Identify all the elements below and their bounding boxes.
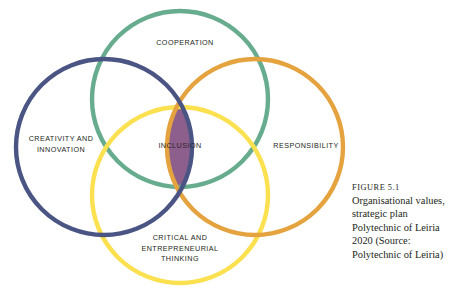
figure-caption: FIGURE 5.1 Organisational values, strate… bbox=[352, 181, 452, 261]
venn-diagram: COOPERATION CREATIVITY AND INNOVATION RE… bbox=[0, 0, 350, 296]
figure-caption-text: Organisational values, strategic plan Po… bbox=[352, 194, 452, 261]
venn-diagram-svg bbox=[0, 0, 350, 296]
figure-number: FIGURE 5.1 bbox=[352, 181, 452, 194]
figure-container: COOPERATION CREATIVITY AND INNOVATION RE… bbox=[0, 0, 454, 296]
